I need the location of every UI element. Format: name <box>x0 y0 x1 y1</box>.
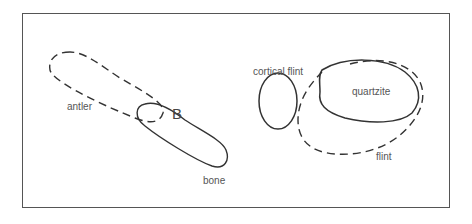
label-antler: antler <box>67 102 92 112</box>
label-quartzite: quartzite <box>352 87 390 97</box>
cortical-flint-outline <box>259 73 297 129</box>
cluster-outlines <box>0 0 472 224</box>
marker-b: B <box>172 106 182 121</box>
label-cortical-flint: cortical flint <box>253 67 303 77</box>
bone-outline <box>137 103 227 167</box>
label-flint: flint <box>376 152 392 162</box>
label-bone: bone <box>203 176 225 186</box>
flint-outline <box>298 61 423 155</box>
